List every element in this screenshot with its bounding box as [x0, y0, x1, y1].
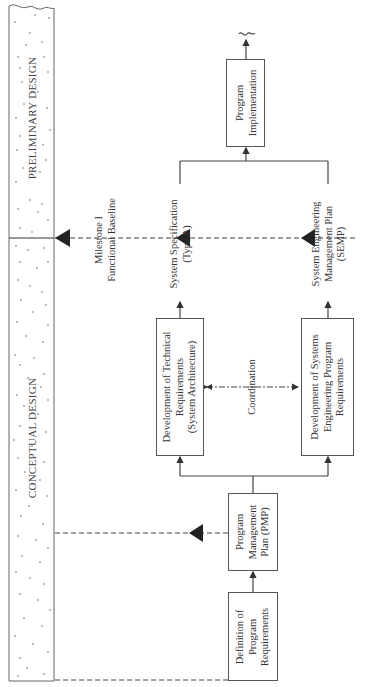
implementation-box: Program Implementation	[226, 59, 265, 147]
system-spec-text: System Specification (Type A)	[168, 199, 193, 288]
system-spec-label: System Specification (Type A)	[160, 186, 200, 301]
definition-text: Definition of Program Requirements	[234, 607, 272, 665]
coordination-label: Coordination	[240, 350, 264, 424]
pmp-arrowhead	[189, 524, 203, 542]
phase-label-preliminary: PRELIMINARY DESIGN	[26, 57, 38, 180]
continuation-squiggle-icon	[239, 33, 255, 35]
pmp-text: Program Management Plan (PMP)	[234, 505, 272, 560]
coordination-text: Coordination	[246, 359, 259, 414]
milestone-text: Milestone I Functional Baseline	[93, 198, 118, 282]
systems-engineering-box: Development of Systems Engineering Progr…	[301, 318, 354, 456]
phase-label-conceptual: CONCEPTUAL DESIGN	[26, 378, 38, 499]
diagram-canvas: PRELIMINARY DESIGN CONCEPTUAL DESIGN Mil…	[0, 0, 369, 687]
milestone-arrowhead	[55, 229, 70, 247]
pmp-box: Program Management Plan (PMP)	[228, 493, 278, 571]
technical-requirements-box: Development of Technical Requirements (S…	[156, 318, 204, 456]
implementation-text: Program Implementation	[233, 70, 258, 136]
semp-label: System Engineering Management Plan (SEMP…	[306, 186, 352, 301]
semp-text: System Engineering Management Plan (SEMP…	[310, 201, 348, 286]
technical-text: Development of Technical Requirements (S…	[161, 331, 199, 442]
systems-eng-text: Development of Systems Engineering Progr…	[309, 334, 347, 440]
definition-box: Definition of Program Requirements	[228, 592, 278, 681]
milestone-label: Milestone I Functional Baseline	[80, 190, 130, 290]
